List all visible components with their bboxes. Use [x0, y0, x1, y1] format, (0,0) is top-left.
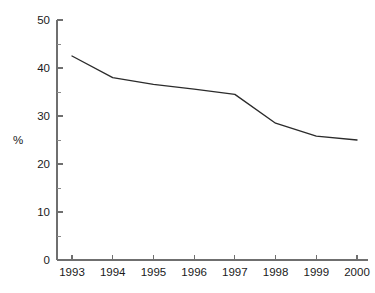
x-tick-label: 1997 [222, 266, 248, 278]
x-tick-label: 1994 [100, 266, 126, 278]
y-tick-label: 50 [37, 14, 50, 26]
y-axis: 01020304050 [37, 14, 63, 266]
chart-canvas: 01020304050 1993199419951996199719981999… [0, 0, 375, 293]
x-tick-label: 1999 [303, 266, 329, 278]
y-axis-label: % [13, 134, 23, 146]
y-tick-label: 0 [44, 254, 50, 266]
y-tick-label: 40 [37, 62, 50, 74]
x-tick-label: 1998 [263, 266, 289, 278]
x-tick-label: 1996 [181, 266, 207, 278]
x-tick-label: 2000 [344, 266, 370, 278]
y-axis-label-group: % [13, 134, 23, 146]
line-chart: 01020304050 1993199419951996199719981999… [0, 0, 375, 293]
y-tick-label: 30 [37, 110, 50, 122]
x-tick-label: 1995 [141, 266, 167, 278]
x-axis: 19931994199519961997199819992000 [57, 255, 370, 278]
y-tick-label: 10 [37, 206, 50, 218]
data-line-series [72, 56, 357, 140]
y-tick-label: 20 [37, 158, 50, 170]
data-series-group [72, 56, 357, 140]
x-tick-label: 1993 [59, 266, 85, 278]
